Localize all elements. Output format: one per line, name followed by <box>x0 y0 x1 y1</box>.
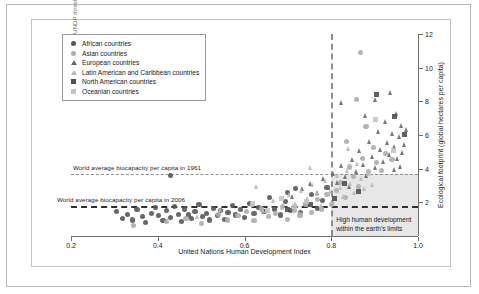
data-point-circle <box>204 211 209 216</box>
legend-item-label: European countries <box>82 59 139 66</box>
data-point-triangle <box>402 142 406 147</box>
data-point-square <box>304 199 309 204</box>
data-point-triangle <box>308 165 312 170</box>
data-point-triangle <box>383 119 387 124</box>
y-tick-label: 8 <box>425 98 429 105</box>
data-point-triangle <box>323 178 327 183</box>
data-point-triangle <box>339 100 343 105</box>
data-point-triangle <box>346 146 350 151</box>
data-point-triangle <box>366 171 370 176</box>
undp-threshold-label: UNDP threshold for high human developmen… <box>71 0 78 34</box>
y-axis-title: Ecological footprint (global hectares pe… <box>436 34 479 236</box>
data-point-circle <box>251 218 256 223</box>
data-point-triangle <box>385 140 389 145</box>
data-point-circle <box>207 217 212 222</box>
sustainable-region-label: High human development within the earth'… <box>336 216 411 234</box>
y-tick-label: 4 <box>425 165 429 172</box>
data-point-square <box>342 181 347 186</box>
data-point-triangle <box>287 192 291 197</box>
sustainable-region-label-line1: High human development <box>336 216 411 225</box>
legend-item-african-countries[interactable]: African countries <box>68 39 199 49</box>
data-point-circle <box>131 223 136 228</box>
data-point-triangle <box>397 134 401 139</box>
data-point-circle <box>293 186 298 191</box>
data-point-circle <box>168 173 173 178</box>
figure-frame: World average biocapacity per capita in … <box>6 4 471 287</box>
data-point-triangle <box>236 212 240 217</box>
data-point-circle <box>379 168 384 173</box>
data-point-triangle <box>399 123 403 128</box>
data-point-triangle <box>280 205 284 210</box>
data-point-square <box>356 189 361 194</box>
data-point-circle <box>354 97 359 102</box>
data-point-triangle <box>328 189 332 194</box>
legend-item-latin-american-and-caribbean-countries[interactable]: Latin American and Caribbean countries <box>68 68 199 78</box>
data-point-triangle <box>357 148 361 153</box>
data-point-circle <box>358 50 363 55</box>
x-axis: 0.20.40.60.81.0 <box>71 236 418 237</box>
plot-panel: World average biocapacity per capita in … <box>31 19 451 267</box>
data-point-triangle <box>373 165 377 170</box>
data-point-circle <box>134 207 139 212</box>
x-axis-title: United Nations Human Development Index <box>71 248 418 255</box>
data-point-circle <box>242 215 247 220</box>
y-tick-label: 12 <box>425 31 433 38</box>
y-tick-label: 6 <box>425 132 429 139</box>
data-point-square <box>250 201 255 206</box>
legend-item-label: Oceanian countries <box>82 88 139 95</box>
data-point-circle <box>168 215 173 220</box>
data-point-triangle <box>310 182 314 187</box>
data-point-triangle <box>355 161 359 166</box>
data-point-triangle <box>378 147 382 152</box>
sustainable-region-label-line2: within the earth's limits <box>336 225 411 234</box>
biocapacity-1961-label: World average biocapacity per capita in … <box>73 164 201 171</box>
legend-item-european-countries[interactable]: European countries <box>68 58 199 68</box>
legend-item-north-american-countries[interactable]: North American countries <box>68 77 199 87</box>
data-point-triangle <box>373 97 377 102</box>
legend-item-label: Asian countries <box>82 50 127 57</box>
y-tick <box>419 169 423 170</box>
legend-item-asian-countries[interactable]: Asian countries <box>68 49 199 59</box>
legend-item-label: African countries <box>82 40 131 47</box>
data-point-circle <box>196 202 201 207</box>
data-point-circle <box>363 124 368 129</box>
data-point-circle <box>189 216 194 221</box>
data-point-circle <box>114 209 119 214</box>
y-tick <box>419 68 423 69</box>
legend-item-oceanian-countries[interactable]: Oceanian countries <box>68 87 199 97</box>
data-point-circle <box>153 205 158 210</box>
data-point-triangle <box>335 173 339 178</box>
data-point-circle <box>371 145 376 150</box>
data-point-circle <box>285 217 290 222</box>
data-point-circle <box>164 219 169 224</box>
data-point-circle <box>309 210 314 215</box>
data-point-triangle <box>400 150 404 155</box>
data-point-triangle <box>361 162 365 167</box>
data-point-circle <box>225 210 230 215</box>
data-point-circle <box>225 217 230 222</box>
data-point-triangle <box>376 129 380 134</box>
data-point-triangle <box>254 184 258 189</box>
data-point-circle <box>130 217 135 222</box>
data-point-circle <box>164 208 169 213</box>
legend-item-label: North American countries <box>82 78 156 85</box>
data-point-triangle <box>319 203 323 208</box>
biocapacity-2006-line <box>71 206 418 208</box>
data-point-circle <box>315 197 320 202</box>
data-point-circle <box>283 199 288 204</box>
legend: African countriesAsian countriesEuropean… <box>62 34 206 101</box>
biocapacity-2006-label: World average biocapacity per capita in … <box>57 196 185 203</box>
data-point-triangle <box>362 186 366 191</box>
data-point-circle <box>297 212 302 217</box>
data-point-triangle <box>271 198 275 203</box>
data-point-circle <box>266 214 271 219</box>
data-point-triangle <box>354 169 358 174</box>
data-point-triangle <box>315 191 319 196</box>
data-point-circle <box>176 212 181 217</box>
data-point-circle <box>143 220 148 225</box>
x-tick <box>418 237 419 241</box>
data-point-square <box>374 92 379 97</box>
data-point-triangle <box>195 214 199 219</box>
data-point-square <box>279 196 284 201</box>
x-tick <box>331 237 332 241</box>
